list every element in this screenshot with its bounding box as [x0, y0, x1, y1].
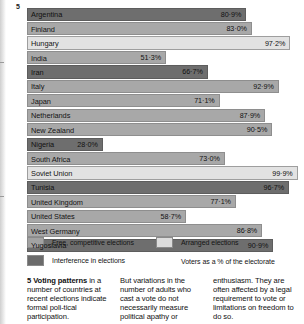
chart-row: 66·7%Iran	[27, 65, 298, 79]
chart-row: 90·5%New Zealand	[27, 123, 298, 137]
bar-value-label: 83·0%	[226, 24, 251, 33]
chart-row: 97·2%Hungary	[27, 36, 298, 50]
bar-japan: 71·1%	[27, 94, 220, 107]
bar-tunisia: 96·7%	[27, 181, 289, 194]
chart-row: 80·9%Argentina	[27, 7, 298, 21]
bar-category-label: United Kingdom	[31, 197, 83, 206]
bar-category-label: Yugoslavia	[31, 241, 66, 250]
chart-row: 51·3%India	[27, 50, 298, 64]
bar-value-label: 92·9%	[253, 82, 278, 91]
page-edge-tick	[0, 62, 4, 63]
chart-row: 58·7%United States	[27, 209, 298, 223]
page-edge-shadow	[0, 0, 6, 324]
chart-row: 73·0%South Africa	[27, 151, 298, 165]
bar-category-label: United States	[31, 212, 75, 221]
bar-category-label: Netherlands	[31, 111, 70, 120]
caption-lead-bold: Voting patterns	[33, 276, 87, 285]
bar-category-label: Argentina	[31, 10, 62, 19]
bar-category-label: South Africa	[31, 154, 70, 163]
bar-finland: 83·0%	[27, 22, 252, 35]
bar-value-label: 66·7%	[182, 67, 207, 76]
bar-value-label: 96·7%	[264, 183, 289, 192]
legend-label-interference: Interference in elections	[52, 257, 125, 264]
figure-caption: 5 Voting patterns in a number of countri…	[27, 277, 298, 322]
bar-hungary: 97·2%	[27, 36, 290, 49]
bar-value-label: 58·7%	[161, 212, 186, 221]
bar-category-label: New Zealand	[31, 125, 74, 134]
legend-item-interference: Interference in elections	[27, 255, 125, 266]
chart-row: 86·8%West Germany	[27, 224, 298, 238]
bar-value-label: 80·9%	[221, 10, 246, 19]
bar-chart: 80·9%Argentina83·0%Finland97·2%Hungary51…	[27, 7, 298, 252]
bar-value-label: 71·1%	[194, 96, 219, 105]
bar-value-label: 73·0%	[199, 154, 224, 163]
caption-column-2: But variations in the number of adults w…	[120, 277, 204, 322]
bar-value-label: 87·9%	[240, 111, 265, 120]
chart-row: 96·7%Tunisia	[27, 180, 298, 194]
chart-row: 83·0%Finland	[27, 21, 298, 35]
bar-value-label: 51·3%	[140, 53, 165, 62]
chart-row: 99·9%Soviet Union	[27, 166, 298, 180]
chart-row: 28·0%Nigeria	[27, 137, 298, 151]
legend-label-arranged: Arranged elections	[181, 239, 238, 246]
bar-category-label: Soviet Union	[31, 169, 72, 178]
bar-category-label: Nigeria	[31, 140, 54, 149]
bar-category-label: Hungary	[31, 39, 59, 48]
bar-value-label: 97·2%	[265, 39, 290, 48]
legend-item-arranged: Arranged elections	[156, 237, 238, 248]
chart-row: 71·1%Japan	[27, 94, 298, 108]
bar-value-label: 77·1%	[210, 197, 235, 206]
page-edge-tick	[0, 196, 4, 197]
bar-category-label: Japan	[31, 96, 51, 105]
figure-number: 5	[16, 3, 20, 10]
bar-category-label: Italy	[31, 82, 44, 91]
legend-swatch-arranged-icon	[156, 237, 173, 248]
caption-column-3: enthusiasm. They are often affected by a…	[213, 277, 297, 322]
bar-category-label: India	[31, 53, 47, 62]
bar-india: 51·3%	[27, 51, 166, 64]
bar-value-label: 90·5%	[247, 125, 272, 134]
chart-row: 92·9%Italy	[27, 79, 298, 93]
bar-category-label: Iran	[31, 67, 44, 76]
axis-note: Voters as a % of the electorate	[181, 258, 275, 265]
bar-value-label: 28·0%	[77, 140, 102, 149]
chart-row: 77·1%United Kingdom	[27, 195, 298, 209]
bar-value-label: 99·9%	[272, 169, 297, 178]
bar-category-label: Tunisia	[31, 183, 54, 192]
caption-column-1: 5 Voting patterns in a number of countri…	[27, 277, 111, 322]
chart-legend: Free, competitive elections Interference…	[27, 237, 298, 271]
bar-value-label: 86·8%	[237, 226, 262, 235]
legend-swatch-interference-icon	[27, 255, 44, 266]
chart-row: 87·9%Netherlands	[27, 108, 298, 122]
bar-iran: 66·7%	[27, 65, 208, 78]
bar-category-label: Finland	[31, 24, 55, 33]
bar-category-label: West Germany	[31, 226, 80, 235]
bar-italy: 92·9%	[27, 80, 279, 93]
